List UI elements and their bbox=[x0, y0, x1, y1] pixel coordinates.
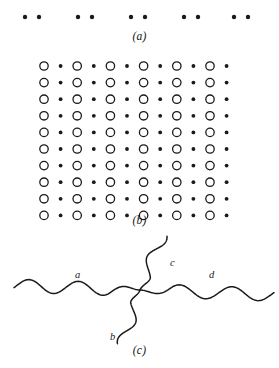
lattice-open-circle bbox=[40, 128, 48, 136]
lattice-open-circle bbox=[40, 95, 48, 103]
lattice-open-circle bbox=[173, 178, 181, 186]
panel-c-caption: (c) bbox=[0, 344, 279, 356]
lattice-row bbox=[40, 195, 229, 203]
lattice-filled-dot bbox=[192, 197, 196, 201]
lattice-filled-dot bbox=[192, 97, 196, 101]
lattice-filled-dot bbox=[59, 81, 63, 85]
lattice-filled-dot bbox=[92, 97, 96, 101]
lattice-filled-dot bbox=[225, 97, 229, 101]
lattice-open-circle bbox=[173, 62, 181, 70]
wavy-branch-a bbox=[14, 280, 140, 296]
lattice-filled-dot bbox=[125, 64, 129, 68]
filled-dot bbox=[23, 15, 27, 19]
lattice-filled-dot bbox=[125, 81, 129, 85]
branch-label-c: c bbox=[170, 257, 175, 268]
lattice-filled-dot bbox=[92, 114, 96, 118]
lattice-open-circle bbox=[73, 62, 81, 70]
lattice-filled-dot bbox=[225, 81, 229, 85]
lattice-filled-dot bbox=[59, 197, 63, 201]
filled-dot bbox=[76, 15, 80, 19]
lattice-row bbox=[40, 112, 229, 120]
lattice-open-circle bbox=[73, 128, 81, 136]
lattice-open-circle bbox=[73, 195, 81, 203]
lattice-row bbox=[40, 128, 229, 136]
branch-label-d: d bbox=[209, 269, 214, 280]
lattice-filled-dot bbox=[92, 147, 96, 151]
lattice-open-circle bbox=[206, 128, 214, 136]
dot-pair bbox=[23, 15, 41, 19]
lattice-filled-dot bbox=[158, 147, 162, 151]
lattice-open-circle bbox=[106, 95, 114, 103]
filled-dot bbox=[232, 15, 236, 19]
lattice-open-circle bbox=[139, 95, 147, 103]
wavy-branch-c bbox=[140, 236, 167, 290]
filled-dot bbox=[246, 15, 250, 19]
lattice-filled-dot bbox=[92, 180, 96, 184]
lattice-filled-dot bbox=[59, 164, 63, 168]
lattice-open-circle bbox=[139, 128, 147, 136]
lattice-filled-dot bbox=[59, 180, 63, 184]
lattice-filled-dot bbox=[225, 164, 229, 168]
lattice-open-circle bbox=[73, 145, 81, 153]
lattice-row bbox=[40, 161, 229, 169]
lattice-filled-dot bbox=[125, 164, 129, 168]
lattice-row bbox=[40, 95, 229, 103]
lattice-filled-dot bbox=[92, 197, 96, 201]
lattice-open-circle bbox=[40, 145, 48, 153]
filled-dot bbox=[90, 15, 94, 19]
dot-pair bbox=[232, 15, 250, 19]
lattice-row bbox=[40, 78, 229, 86]
lattice-open-circle bbox=[173, 95, 181, 103]
lattice-open-circle bbox=[40, 112, 48, 120]
filled-dot bbox=[182, 15, 186, 19]
lattice-filled-dot bbox=[158, 64, 162, 68]
lattice-filled-dot bbox=[225, 180, 229, 184]
lattice-filled-dot bbox=[59, 147, 63, 151]
lattice-open-circle bbox=[173, 195, 181, 203]
panel-c: a b c d (c) bbox=[0, 230, 279, 368]
dot-pair bbox=[76, 15, 94, 19]
lattice-filled-dot bbox=[158, 97, 162, 101]
lattice-open-circle bbox=[106, 195, 114, 203]
lattice-filled-dot bbox=[225, 131, 229, 135]
lattice-open-circle bbox=[106, 161, 114, 169]
panel-b-lattice-graphic bbox=[0, 50, 279, 230]
lattice-filled-dot bbox=[59, 64, 63, 68]
lattice-open-circle bbox=[139, 161, 147, 169]
lattice-open-circle bbox=[173, 161, 181, 169]
lattice-filled-dot bbox=[92, 131, 96, 135]
lattice-open-circle bbox=[206, 95, 214, 103]
lattice-filled-dot bbox=[225, 64, 229, 68]
lattice-open-circle bbox=[139, 195, 147, 203]
lattice-open-circle bbox=[73, 178, 81, 186]
lattice-open-circle bbox=[139, 145, 147, 153]
dot-pair bbox=[129, 15, 147, 19]
lattice-open-circle bbox=[106, 62, 114, 70]
lattice-row bbox=[40, 145, 229, 153]
lattice-filled-dot bbox=[92, 64, 96, 68]
lattice-open-circle bbox=[139, 178, 147, 186]
panel-a: (a) bbox=[0, 0, 279, 50]
lattice-open-circle bbox=[173, 128, 181, 136]
lattice-filled-dot bbox=[192, 64, 196, 68]
lattice-open-circle bbox=[73, 95, 81, 103]
panel-b: (b) bbox=[0, 50, 279, 230]
lattice-filled-dot bbox=[92, 81, 96, 85]
lattice-open-circle bbox=[106, 112, 114, 120]
lattice-open-circle bbox=[139, 78, 147, 86]
lattice-open-circle bbox=[106, 178, 114, 186]
lattice-filled-dot bbox=[125, 131, 129, 135]
lattice-filled-dot bbox=[225, 114, 229, 118]
lattice-row bbox=[40, 178, 229, 186]
panel-a-caption: (a) bbox=[0, 30, 279, 42]
panel-a-graphic bbox=[0, 0, 279, 50]
lattice-open-circle bbox=[206, 62, 214, 70]
lattice-filled-dot bbox=[192, 147, 196, 151]
lattice-open-circle bbox=[73, 78, 81, 86]
dot-pair bbox=[182, 15, 200, 19]
lattice-filled-dot bbox=[59, 114, 63, 118]
lattice-open-circle bbox=[40, 195, 48, 203]
wavy-branch-b bbox=[117, 290, 140, 344]
lattice-filled-dot bbox=[192, 164, 196, 168]
lattice-open-circle bbox=[106, 128, 114, 136]
